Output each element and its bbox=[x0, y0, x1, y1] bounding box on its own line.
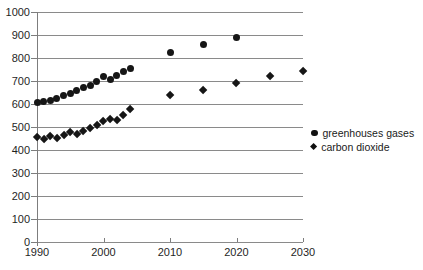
circle-marker-icon bbox=[311, 130, 318, 137]
gridline bbox=[37, 127, 303, 128]
x-axis-label: 2010 bbox=[144, 246, 196, 258]
x-tick bbox=[237, 238, 238, 242]
y-axis-label: 400 bbox=[0, 144, 30, 156]
y-axis-label: 600 bbox=[0, 98, 30, 110]
data-point-greenhouses-gases bbox=[80, 84, 87, 91]
data-point-greenhouses-gases bbox=[127, 65, 134, 72]
x-tick bbox=[170, 238, 171, 242]
legend: greenhouses gases carbon dioxide bbox=[311, 126, 414, 154]
gridline bbox=[37, 12, 303, 13]
data-point-greenhouses-gases bbox=[93, 78, 100, 85]
x-axis-label: 2030 bbox=[277, 246, 329, 258]
legend-item-carbon-dioxide: carbon dioxide bbox=[311, 140, 414, 154]
x-tick bbox=[303, 238, 304, 242]
gridline bbox=[37, 35, 303, 36]
x-axis-label: 1990 bbox=[11, 246, 63, 258]
y-axis-label: 300 bbox=[0, 167, 30, 179]
gridline bbox=[37, 104, 303, 105]
gridline bbox=[37, 219, 303, 220]
data-point-greenhouses-gases bbox=[200, 41, 207, 48]
y-axis-line bbox=[37, 12, 38, 246]
diamond-marker-icon bbox=[310, 143, 317, 150]
x-tick bbox=[104, 238, 105, 242]
y-axis-label: 800 bbox=[0, 52, 30, 64]
y-axis-label: 500 bbox=[0, 121, 30, 133]
y-axis-label: 1000 bbox=[0, 6, 30, 18]
y-axis-label: 200 bbox=[0, 190, 30, 202]
data-point-carbon-dioxide bbox=[299, 67, 308, 76]
data-point-greenhouses-gases bbox=[100, 73, 107, 80]
data-point-greenhouses-gases bbox=[167, 49, 174, 56]
x-axis-label: 2000 bbox=[78, 246, 130, 258]
legend-label-carbon-dioxide: carbon dioxide bbox=[321, 140, 389, 154]
legend-item-greenhouses-gases: greenhouses gases bbox=[311, 126, 414, 140]
data-point-carbon-dioxide bbox=[126, 104, 135, 113]
data-point-greenhouses-gases bbox=[233, 34, 240, 41]
gridline bbox=[37, 150, 303, 151]
data-point-carbon-dioxide bbox=[199, 86, 208, 95]
data-point-greenhouses-gases bbox=[120, 68, 127, 75]
y-axis-label: 700 bbox=[0, 75, 30, 87]
y-axis-label: 900 bbox=[0, 29, 30, 41]
y-axis-label: 100 bbox=[0, 213, 30, 225]
gridline bbox=[37, 58, 303, 59]
gridline bbox=[37, 173, 303, 174]
scatter-chart: 0100200300400500600700800900100019902000… bbox=[0, 0, 423, 270]
data-point-carbon-dioxide bbox=[166, 90, 175, 99]
gridline bbox=[37, 196, 303, 197]
x-axis-label: 2020 bbox=[211, 246, 263, 258]
gridline bbox=[37, 81, 303, 82]
data-point-carbon-dioxide bbox=[265, 72, 274, 81]
data-point-carbon-dioxide bbox=[112, 116, 121, 125]
gridline bbox=[37, 242, 303, 243]
legend-label-greenhouses-gases: greenhouses gases bbox=[323, 126, 415, 140]
